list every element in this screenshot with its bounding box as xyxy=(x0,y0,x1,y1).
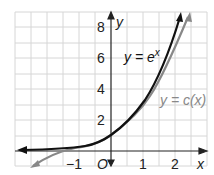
curve-label-e-base: y = e xyxy=(123,49,155,65)
curve-label-c-of-x: y = c(x) xyxy=(159,92,206,108)
y-axis-arrow-down-icon xyxy=(108,160,114,166)
curve-e-arrow-left-icon xyxy=(17,146,27,154)
origin-label: O xyxy=(97,156,108,172)
curve-label-e-to-x: y = ex xyxy=(123,47,161,65)
x-axis-label: x xyxy=(196,156,205,172)
y-tick-4: 4 xyxy=(97,81,105,97)
x-tick-1: 1 xyxy=(139,156,147,172)
y-axis-arrow-up-icon xyxy=(108,12,114,19)
x-tick-minus-1: −1 xyxy=(66,156,82,172)
y-tick-6: 6 xyxy=(97,50,105,66)
y-axis-label: y xyxy=(115,14,124,30)
x-tick-2: 2 xyxy=(171,156,179,172)
curve-label-e-exponent: x xyxy=(154,47,161,58)
chart: 8 6 4 2 −1 1 2 O x y y = ex y = c(x) xyxy=(0,0,214,175)
y-tick-8: 8 xyxy=(97,19,105,35)
y-tick-2: 2 xyxy=(97,112,105,128)
x-axis-arrow-icon xyxy=(199,148,207,154)
curve-e-arrow-up-icon xyxy=(176,12,183,22)
